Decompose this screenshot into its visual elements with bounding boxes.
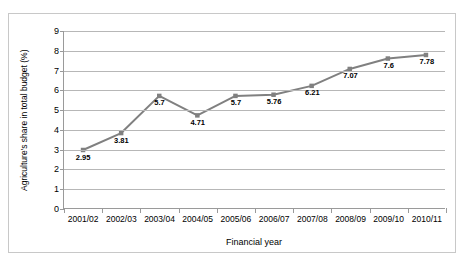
gridline [64, 90, 445, 91]
data-point-label: 7.6 [383, 62, 393, 70]
y-axis-tick-label: 7 [54, 66, 59, 75]
x-axis-tick-label: 2010/11 [412, 215, 442, 224]
y-axis-tick-mark [60, 90, 64, 91]
data-point-marker [309, 84, 313, 88]
x-axis-tick-mark [64, 208, 65, 213]
y-axis-tick-label: 8 [54, 46, 59, 55]
y-axis-tick-mark [60, 51, 64, 52]
data-point-marker [195, 113, 199, 117]
y-axis-tick-label: 5 [54, 106, 59, 115]
plot-area: 01234567892001/022002/032003/042004/0520… [63, 31, 445, 209]
y-axis-tick-label: 6 [54, 86, 59, 95]
data-point-marker [233, 94, 237, 98]
y-axis-tick-mark [60, 71, 64, 72]
gridline [64, 130, 445, 131]
data-point-label: 7.07 [343, 72, 358, 80]
gridline [64, 110, 445, 111]
gridline [64, 31, 445, 32]
y-axis-tick-label: 0 [54, 205, 59, 214]
gridline [64, 189, 445, 190]
x-axis-tick-label: 2006/07 [259, 215, 290, 224]
y-axis-tick-mark [60, 110, 64, 111]
x-axis-tick-mark [217, 208, 218, 213]
data-point-label: 5.7 [231, 100, 241, 108]
line-series [64, 31, 445, 208]
x-axis-tick-mark [140, 208, 141, 213]
gridline [64, 51, 445, 52]
chart-container: Agriculture's share in total budget (%) … [8, 13, 456, 253]
x-axis-tick-mark [446, 208, 447, 213]
x-axis-tick-label: 2008/09 [335, 215, 366, 224]
x-axis-title: Financial year [63, 238, 445, 247]
y-axis-tick-mark [60, 189, 64, 190]
x-axis-tick-mark [293, 208, 294, 213]
x-axis-tick-label: 2001/02 [68, 215, 99, 224]
data-point-label: 5.7 [154, 100, 164, 108]
data-point-marker [271, 92, 275, 96]
y-axis-tick-mark [60, 169, 64, 170]
data-point-label: 4.71 [190, 119, 205, 127]
x-axis-tick-mark [102, 208, 103, 213]
y-axis-tick-label: 2 [54, 165, 59, 174]
data-point-marker [119, 131, 123, 135]
x-axis-tick-mark [331, 208, 332, 213]
gridline [64, 150, 445, 151]
data-point-marker [157, 94, 161, 98]
data-point-label: 7.78 [420, 58, 435, 66]
series-line [83, 55, 426, 150]
x-axis-tick-label: 2005/06 [221, 215, 252, 224]
x-axis-tick-label: 2009/10 [373, 215, 404, 224]
x-axis-tick-mark [179, 208, 180, 213]
y-axis-tick-mark [60, 31, 64, 32]
data-point-label: 2.95 [76, 154, 91, 162]
gridline [64, 169, 445, 170]
y-axis-title-text: Agriculture's share in total budget (%) [21, 49, 30, 190]
y-axis-tick-mark [60, 150, 64, 151]
y-axis-tick-mark [60, 130, 64, 131]
x-axis-tick-label: 2007/08 [297, 215, 328, 224]
gridline [64, 71, 445, 72]
y-axis-tick-label: 1 [54, 185, 59, 194]
data-point-label: 6.21 [305, 89, 320, 97]
y-axis-tick-label: 3 [54, 145, 59, 154]
x-axis-tick-mark [255, 208, 256, 213]
y-axis-tick-label: 4 [54, 125, 59, 134]
y-axis-title: Agriculture's share in total budget (%) [18, 31, 32, 209]
data-point-label: 3.81 [114, 137, 129, 145]
x-axis-tick-mark [370, 208, 371, 213]
x-axis-tick-mark [408, 208, 409, 213]
y-axis-tick-label: 9 [54, 27, 59, 36]
data-point-label: 5.76 [267, 98, 282, 106]
x-axis-tick-label: 2004/05 [182, 215, 213, 224]
x-axis-tick-label: 2002/03 [106, 215, 137, 224]
x-axis-tick-label: 2003/04 [144, 215, 175, 224]
